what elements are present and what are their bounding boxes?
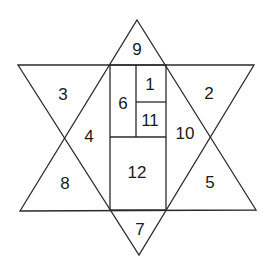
region-label-1: 1 [145, 75, 154, 94]
region-label-3: 3 [58, 85, 67, 104]
region-label-12: 12 [128, 163, 147, 182]
region-label-10: 10 [176, 124, 195, 143]
region-label-6: 6 [118, 94, 127, 113]
region-label-5: 5 [205, 173, 214, 192]
region-label-7: 7 [135, 220, 144, 239]
region-label-9: 9 [132, 40, 141, 59]
region-label-4: 4 [84, 127, 93, 146]
region-label-11: 11 [141, 111, 159, 130]
star-partition-diagram: 1 2 3 4 5 6 7 8 9 10 11 12 [0, 0, 269, 275]
region-label-2: 2 [204, 84, 213, 103]
region-label-8: 8 [60, 174, 69, 193]
